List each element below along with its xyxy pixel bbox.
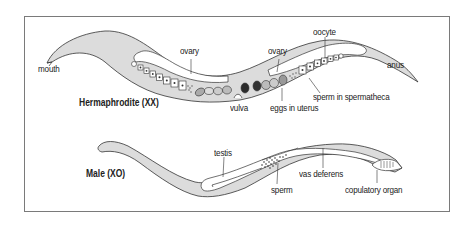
label-vas-deferens: vas deferens [299, 168, 343, 179]
label-testis: testis [214, 147, 232, 158]
label-eggs-in-uterus: eggs in uterus [270, 102, 318, 113]
label-copulatory-organ: copulatory organ [345, 184, 402, 195]
hermaphrodite-title: Hermaphrodite (XX) [79, 97, 159, 108]
label-ovary-right: ovary [268, 45, 287, 56]
label-sperm-in-spermatheca: sperm in spermatheca [313, 91, 389, 102]
label-sperm: sperm [271, 184, 293, 195]
label-oocyte: oocyte [313, 26, 336, 37]
male-title: Male (XO) [86, 168, 125, 179]
label-vulva: vulva [230, 102, 248, 113]
label-ovary-left: ovary [180, 45, 199, 56]
label-mouth: mouth [38, 63, 60, 74]
label-anus: anus [387, 59, 404, 70]
